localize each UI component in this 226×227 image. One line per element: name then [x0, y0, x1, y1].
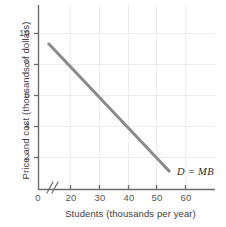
xtick-label-40: 40	[117, 192, 141, 203]
vertical-gridlines	[71, 5, 186, 189]
demand-curve-chart: 10 8 6 4 2 0 20 30 40 50 60 Price and co…	[0, 0, 226, 227]
xtick-label-60: 60	[174, 192, 198, 203]
xtick-label-30: 30	[88, 192, 112, 203]
axis-break-icon	[47, 182, 58, 193]
demand-curve-label: D = MB	[177, 166, 214, 177]
demand-curve-line	[48, 43, 170, 172]
xtick-label-20: 20	[59, 192, 83, 203]
x-axis-title: Students (thousands per year)	[38, 208, 223, 219]
xtick-label-50: 50	[145, 192, 169, 203]
horizontal-gridlines	[38, 34, 215, 158]
origin-label: 0	[29, 192, 47, 203]
y-axis-title: Price and cost (thousands of dollars)	[20, 11, 31, 191]
